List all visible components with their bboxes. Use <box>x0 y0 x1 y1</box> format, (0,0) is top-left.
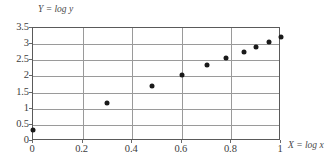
data-point <box>254 44 259 49</box>
y-tick-label: 2.5 <box>3 54 29 65</box>
gridline-vertical <box>132 28 133 139</box>
x-tickmark <box>131 140 132 143</box>
gridline-horizontal <box>33 125 279 126</box>
x-tick-label: 0.8 <box>215 144 245 155</box>
data-point <box>179 72 184 77</box>
gridline-horizontal <box>33 44 279 45</box>
data-point <box>224 56 229 61</box>
log-log-scatter-figure: Y = log y 00.511.522.533.5 00.20.40.60.8… <box>0 0 332 165</box>
y-tickmark <box>29 75 32 76</box>
data-point <box>105 100 110 105</box>
y-tickmark <box>29 43 32 44</box>
x-tickmark <box>82 140 83 143</box>
y-tickmark <box>29 124 32 125</box>
data-point <box>279 35 284 40</box>
y-tickmark <box>29 59 32 60</box>
data-point <box>150 84 155 89</box>
gridline-vertical <box>182 28 183 139</box>
y-tickmark <box>29 27 32 28</box>
x-tickmark <box>280 140 281 143</box>
y-axis-tick-labels: 00.511.522.533.5 <box>0 27 29 140</box>
y-tick-label: 1 <box>3 102 29 113</box>
x-tick-label: 0 <box>17 144 47 155</box>
y-tick-label: 2 <box>3 70 29 81</box>
plot-area <box>32 27 280 140</box>
x-tick-label: 0.2 <box>67 144 97 155</box>
data-point <box>266 39 271 44</box>
y-tick-label: 0.5 <box>3 119 29 130</box>
x-axis-tickmarks <box>32 140 280 144</box>
y-tickmark <box>29 108 32 109</box>
gridline-horizontal <box>33 60 279 61</box>
gridline-vertical <box>83 28 84 139</box>
gridline-horizontal <box>33 93 279 94</box>
x-axis-tick-labels: 00.20.40.60.81 <box>32 144 280 158</box>
y-tick-label: 3.5 <box>3 22 29 33</box>
y-tickmark <box>29 92 32 93</box>
x-tickmark <box>32 140 33 143</box>
x-tickmark <box>181 140 182 143</box>
gridline-vertical <box>231 28 232 139</box>
y-axis-tickmarks <box>29 27 33 140</box>
data-point <box>204 63 209 68</box>
gridline-horizontal <box>33 76 279 77</box>
x-tick-label: 0.6 <box>166 144 196 155</box>
y-tick-label: 3 <box>3 38 29 49</box>
x-tickmark <box>230 140 231 143</box>
y-tick-label: 1.5 <box>3 86 29 97</box>
data-point <box>241 50 246 55</box>
x-axis-title: X = log x <box>288 140 324 151</box>
gridline-horizontal <box>33 109 279 110</box>
x-tick-label: 0.4 <box>116 144 146 155</box>
y-axis-title: Y = log y <box>38 4 73 15</box>
